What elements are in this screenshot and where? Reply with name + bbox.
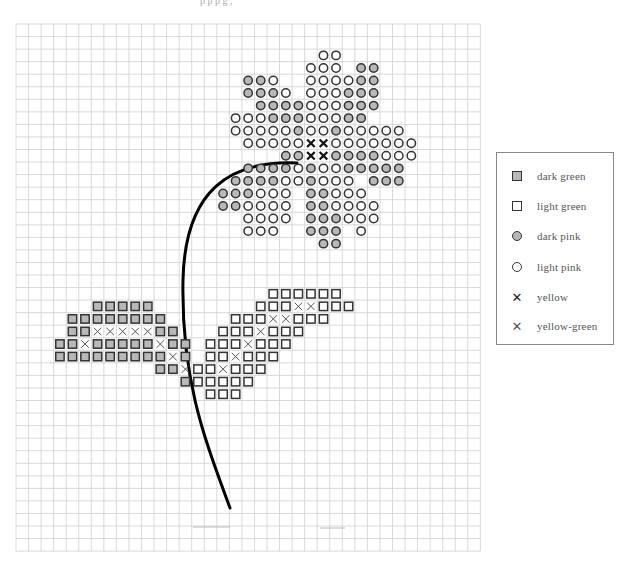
stitch-symbol — [382, 164, 390, 172]
stitch-symbol — [294, 315, 302, 323]
stitch-symbol — [319, 101, 327, 109]
stitch-symbol — [269, 126, 277, 134]
stitch-symbol — [269, 89, 277, 97]
stitch-symbol — [257, 164, 265, 172]
stitch-symbol — [344, 202, 352, 210]
stitch-symbol — [93, 352, 101, 360]
stitch-symbol — [282, 189, 290, 197]
stitch-symbol — [319, 189, 327, 197]
stitch-symbol — [344, 89, 352, 97]
stitch-symbol — [56, 352, 64, 360]
legend-label: yellow-green — [537, 320, 597, 332]
stitch-symbol — [169, 340, 177, 348]
stitch-symbol — [395, 126, 403, 134]
stitch-symbol — [118, 315, 126, 323]
color-key-legend: dark green light green dark pink light p… — [496, 152, 614, 345]
stitch-symbol — [231, 390, 239, 398]
stitch-symbol — [332, 202, 340, 210]
stitch-symbol — [319, 51, 327, 59]
stitch-symbol — [357, 114, 365, 122]
stitch-symbol — [131, 315, 139, 323]
stitch-symbol — [94, 328, 102, 336]
stitch-symbol — [257, 139, 265, 147]
stitch-symbol — [294, 327, 302, 335]
stitch-symbol — [369, 101, 377, 109]
legend-item-light-green: light green — [497, 196, 587, 216]
stitch-symbol — [231, 365, 239, 373]
stitch-symbol — [319, 202, 327, 210]
stitch-symbol — [81, 352, 89, 360]
stitch-symbol — [244, 315, 252, 323]
bold-x-icon: ✕ — [512, 291, 523, 304]
stitch-symbol — [332, 51, 340, 59]
stitch-symbol — [344, 76, 352, 84]
stitch-symbol — [282, 139, 290, 147]
stitch-symbol — [344, 214, 352, 222]
stitch-symbol — [244, 189, 252, 197]
stitch-symbol — [257, 302, 265, 310]
stitch-symbol — [282, 290, 290, 298]
stitch-symbol — [320, 152, 328, 160]
stitch-symbol — [307, 227, 315, 235]
stitch-symbol — [282, 152, 290, 160]
stitch-symbol — [369, 64, 377, 72]
stitch-symbol — [357, 89, 365, 97]
legend-label: light pink — [537, 261, 581, 273]
stitch-symbol — [282, 89, 290, 97]
stitch-symbol — [282, 126, 290, 134]
stitch-symbol — [344, 126, 352, 134]
stitch-symbol — [332, 89, 340, 97]
stitch-symbol — [144, 328, 152, 336]
stitch-symbol — [119, 328, 127, 336]
stitch-symbol — [231, 327, 239, 335]
stitch-symbol — [344, 302, 352, 310]
stitch-symbol — [244, 352, 252, 360]
stitch-symbol — [332, 126, 340, 134]
stitch-symbol — [231, 126, 239, 134]
stitch-symbol — [68, 340, 76, 348]
stitch-symbol — [68, 327, 76, 335]
stitch-symbol — [307, 214, 315, 222]
stitch-symbol — [257, 189, 265, 197]
stitch-symbol — [219, 377, 227, 385]
stitch-symbol — [231, 202, 239, 210]
thin-x-icon: ✕ — [512, 320, 523, 333]
stitch-symbol — [244, 377, 252, 385]
stitch-symbol — [257, 328, 265, 336]
stitch-symbol — [357, 152, 365, 160]
stitch-symbol — [307, 89, 315, 97]
stitch-symbol — [307, 76, 315, 84]
stitch-symbol — [369, 152, 377, 160]
stitch-symbol — [307, 177, 315, 185]
stitch-symbol — [307, 202, 315, 210]
stitch-symbol — [244, 76, 252, 84]
stitch-symbol — [206, 377, 214, 385]
dark-square-icon — [512, 171, 522, 181]
stitch-symbol — [232, 353, 240, 361]
stitch-symbol — [257, 89, 265, 97]
stitch-symbol — [244, 139, 252, 147]
stitch-symbol — [319, 290, 327, 298]
stitch-symbol — [231, 377, 239, 385]
legend-label: dark green — [537, 170, 586, 182]
stitch-symbol — [231, 315, 239, 323]
stitch-symbol — [257, 101, 265, 109]
stitch-symbol — [206, 365, 214, 373]
stitch-symbol — [307, 64, 315, 72]
stitch-symbol — [294, 126, 302, 134]
stitch-symbol — [294, 101, 302, 109]
stitch-symbol — [269, 177, 277, 185]
stitch-symbol — [157, 340, 165, 348]
stitch-symbol — [282, 177, 290, 185]
stitch-symbol — [282, 315, 290, 323]
stitch-symbol — [357, 64, 365, 72]
stitch-symbol — [307, 139, 315, 147]
stitch-symbol — [282, 202, 290, 210]
stitch-symbol — [93, 340, 101, 348]
stitch-symbol — [357, 76, 365, 84]
stitch-symbol — [407, 139, 415, 147]
stitch-symbol — [282, 214, 290, 222]
stitch-symbol — [332, 302, 340, 310]
stitch-symbol — [244, 89, 252, 97]
stitch-symbol — [407, 152, 415, 160]
